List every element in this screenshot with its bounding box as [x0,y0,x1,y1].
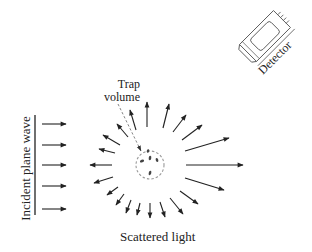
scattered-arrow [99,149,115,153]
scattered-arrow [116,194,124,205]
scattered-arrow [170,198,183,214]
scattered-arrow [185,178,224,190]
scattered-arrow [185,138,229,151]
scattered-arrow [137,203,140,215]
scattered-arrow [160,202,165,217]
trap-volume [136,149,164,179]
scattering-diagram [0,0,312,252]
particle [139,159,144,163]
scattered-light-label: Scattered light [120,230,195,243]
particle [148,156,151,161]
trap-pointer-arrow [118,104,141,151]
particle [155,158,159,163]
particle [146,149,149,153]
incident-plane-wave-label: Incident plane wave [19,114,32,224]
scattered-arrow [103,135,120,145]
scattered-arrow [126,200,131,213]
scattered-arrow [182,125,202,140]
trap-label-line2: volume [96,91,140,104]
scattered-arrow [180,191,198,204]
incident-arrows [42,124,66,209]
scattered-arrow [107,187,118,195]
scattered-arrow [117,124,128,137]
scattered-arrow [94,177,113,183]
trap-volume-label: Trap volume [96,78,140,104]
incident-plane-wave [35,115,66,215]
scattered-arrow [163,104,169,128]
scattered-arrow [173,115,186,132]
trapped-particles [139,149,158,176]
scattered-light-arrows [90,102,243,218]
scattered-arrow [130,110,136,130]
particle [148,171,152,176]
